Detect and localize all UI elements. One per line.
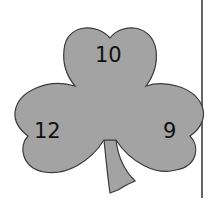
leaf-label-right: 9 — [163, 119, 176, 143]
leaf-label-left: 12 — [34, 119, 61, 143]
leaf-label-top: 10 — [95, 43, 122, 67]
shamrock-figure: 10 12 9 — [0, 0, 219, 203]
